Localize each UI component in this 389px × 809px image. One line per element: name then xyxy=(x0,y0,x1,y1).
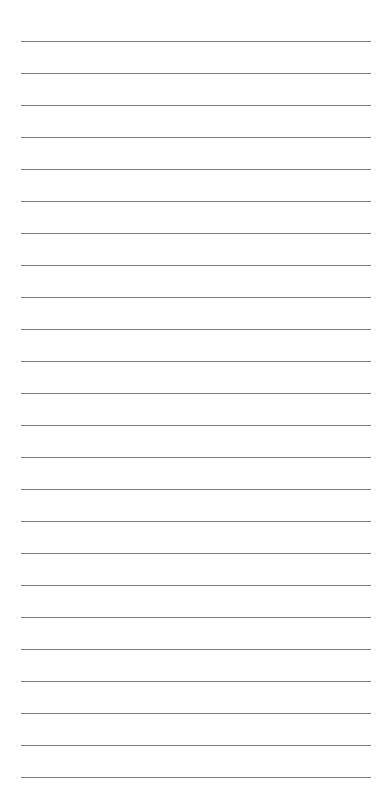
ruled-line xyxy=(21,649,371,650)
ruled-line xyxy=(21,361,371,362)
ruled-line xyxy=(21,713,371,714)
ruled-line xyxy=(21,425,371,426)
ruled-line xyxy=(21,745,371,746)
ruled-line xyxy=(21,105,371,106)
ruled-line xyxy=(21,201,371,202)
ruled-line xyxy=(21,393,371,394)
ruled-line xyxy=(21,553,371,554)
lined-page xyxy=(0,0,389,809)
ruled-line xyxy=(21,681,371,682)
ruled-line xyxy=(21,73,371,74)
ruled-line xyxy=(21,521,371,522)
ruled-line xyxy=(21,329,371,330)
ruled-line xyxy=(21,777,371,778)
ruled-line xyxy=(21,617,371,618)
ruled-line xyxy=(21,297,371,298)
ruled-line xyxy=(21,169,371,170)
ruled-line xyxy=(21,457,371,458)
ruled-line xyxy=(21,41,371,42)
ruled-line xyxy=(21,585,371,586)
ruled-line xyxy=(21,137,371,138)
ruled-line xyxy=(21,489,371,490)
ruled-line xyxy=(21,233,371,234)
ruled-line xyxy=(21,265,371,266)
